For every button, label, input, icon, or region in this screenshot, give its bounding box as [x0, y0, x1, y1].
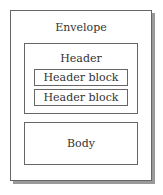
header-block-label: Header block	[35, 91, 127, 104]
body-label: Body	[25, 137, 137, 150]
header-block-label: Header block	[35, 71, 127, 84]
header-block-2: Header block	[34, 89, 128, 106]
envelope-label: Envelope	[11, 21, 151, 34]
body-box: Body	[24, 122, 138, 165]
header-label: Header	[25, 52, 137, 65]
header-block-1: Header block	[34, 69, 128, 86]
